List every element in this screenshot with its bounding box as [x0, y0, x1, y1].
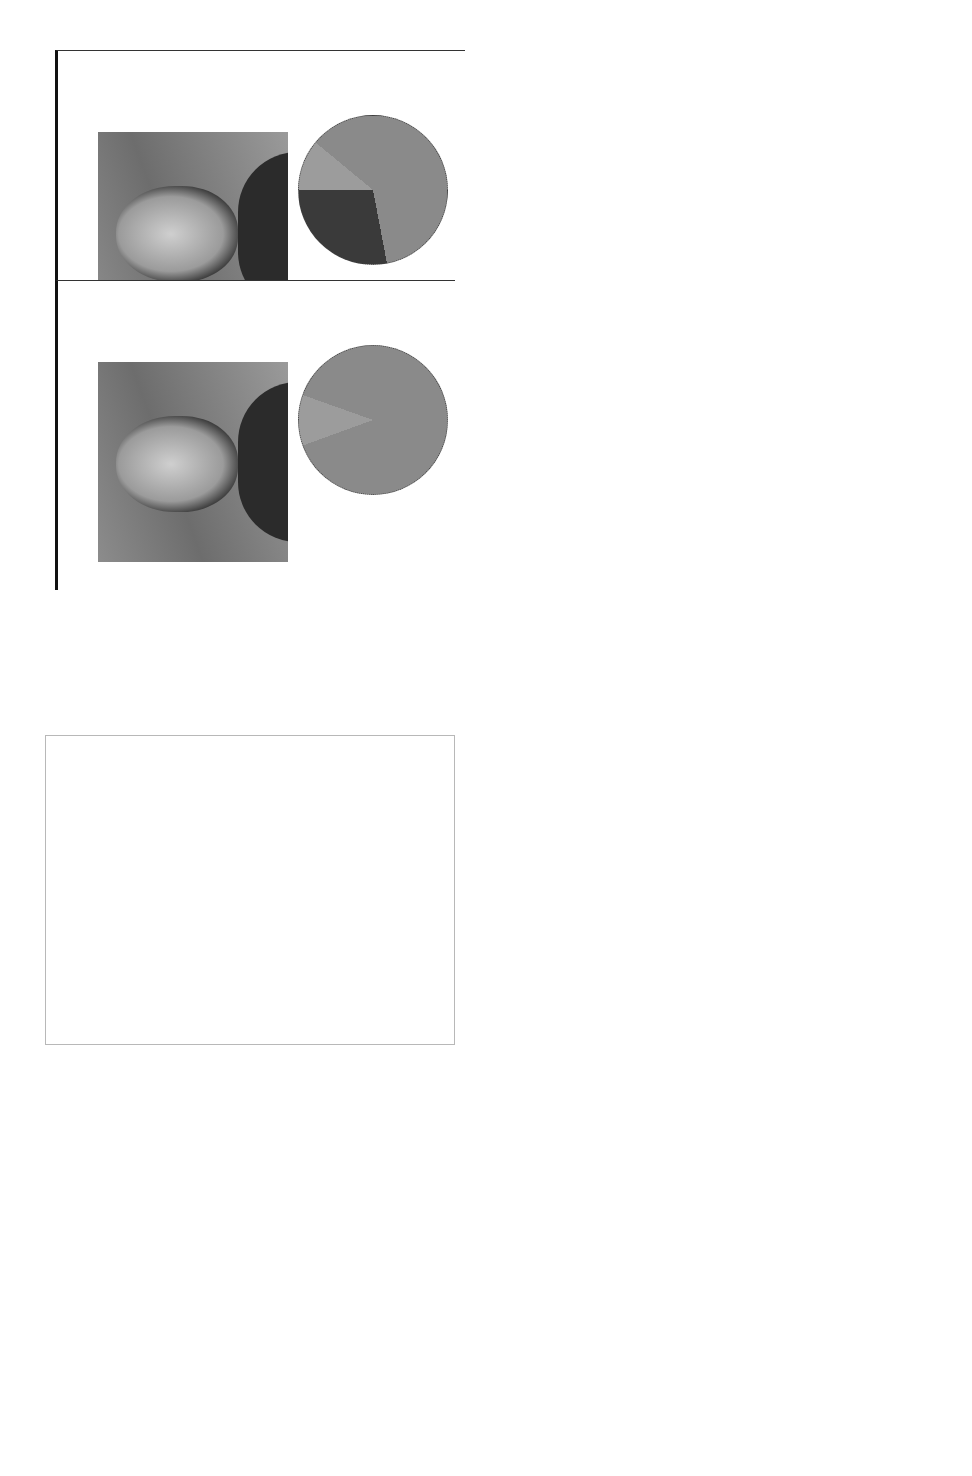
face-photo: [98, 362, 288, 562]
ancestry-pie-chart: [308, 320, 448, 550]
panel-sdpd9: [55, 280, 455, 590]
panel-sdpd5: [45, 735, 245, 1045]
